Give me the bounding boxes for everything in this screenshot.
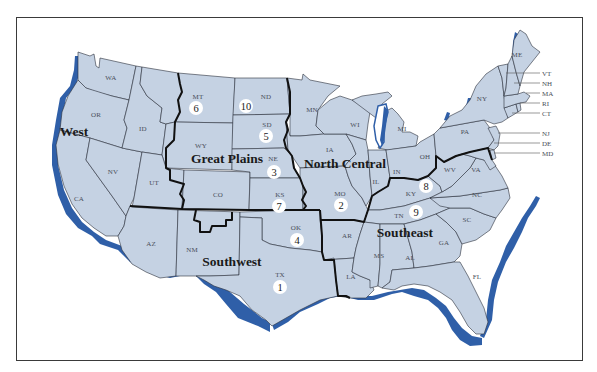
state-label-nv: NV	[108, 168, 119, 176]
state-label-pa: PA	[461, 128, 470, 136]
state-label-mt: MT	[193, 93, 204, 101]
state-label-ca: CA	[74, 195, 84, 203]
state-label-or: OR	[91, 111, 101, 119]
marker-number: 3	[271, 167, 276, 178]
state-label-ny: NY	[477, 95, 488, 103]
state-label-id: ID	[139, 125, 147, 133]
state-label-ok: OK	[291, 224, 302, 232]
marker-number: 8	[423, 181, 428, 192]
marker-number: 1	[277, 282, 282, 293]
marker-3[interactable]: 3	[267, 165, 281, 179]
marker-number: 6	[193, 103, 198, 114]
state-label-sd: SD	[262, 121, 271, 129]
state-label-nd: ND	[261, 93, 272, 101]
callout-label-nj: NJ	[542, 130, 550, 138]
callout-label-ma: MA	[542, 90, 553, 98]
state-label-co: CO	[213, 191, 223, 199]
states-layer	[56, 30, 540, 334]
state-label-ar: AR	[342, 232, 352, 240]
marker-number: 10	[241, 101, 252, 112]
state-label-ut: UT	[149, 179, 159, 187]
marker-5[interactable]: 5	[259, 129, 273, 143]
state-label-wv: WV	[444, 166, 456, 174]
region-label-west: West	[60, 124, 89, 139]
marker-number: 4	[294, 235, 300, 246]
state-label-oh: OH	[420, 153, 431, 161]
state-label-il: IL	[372, 178, 379, 186]
state-label-fl: FL	[473, 273, 482, 281]
region-label-great-plains: Great Plains	[191, 151, 263, 166]
state-label-wa: WA	[105, 74, 116, 82]
state-label-la: LA	[346, 273, 356, 281]
state-label-ia: IA	[326, 146, 334, 154]
state-label-wi: WI	[350, 121, 360, 129]
state-label-tx: TX	[275, 271, 285, 279]
marker-number: 5	[263, 131, 268, 142]
marker-number: 7	[276, 201, 281, 212]
state-label-nc: NC	[472, 191, 482, 199]
marker-number: 9	[413, 207, 418, 218]
us-regions-map: WAORIDMTNDSDWYNENVUTCOKSCAAZNMOKTXMNWIMI…	[0, 0, 597, 372]
state-label-sc: SC	[463, 216, 472, 224]
state-label-mo: MO	[334, 190, 346, 198]
state-label-al: AL	[405, 254, 415, 262]
region-label-north-central: North Central	[304, 156, 386, 171]
marker-6[interactable]: 6	[189, 101, 203, 115]
state-label-me: ME	[512, 51, 523, 59]
callout-label-ri: RI	[542, 100, 550, 108]
callout-label-md: MD	[542, 150, 553, 158]
state-co[interactable]	[182, 170, 250, 210]
state-label-ga: GA	[439, 239, 450, 247]
state-label-wy: WY	[195, 142, 207, 150]
region-label-southwest: Southwest	[202, 254, 262, 269]
region-label-southeast: Southeast	[377, 225, 434, 240]
marker-8[interactable]: 8	[419, 179, 433, 193]
marker-10[interactable]: 10	[239, 99, 253, 113]
callout-label-vt: VT	[542, 70, 552, 78]
state-label-mi: MI	[398, 125, 407, 133]
state-label-ne: NE	[268, 155, 278, 163]
marker-2[interactable]: 2	[334, 198, 348, 212]
state-label-nm: NM	[186, 246, 198, 254]
state-label-az: AZ	[146, 240, 156, 248]
callout-label-nh: NH	[542, 80, 552, 88]
state-label-ms: MS	[374, 252, 385, 260]
marker-1[interactable]: 1	[273, 280, 287, 294]
marker-4[interactable]: 4	[290, 233, 304, 247]
state-label-ky: KY	[406, 190, 417, 198]
state-label-in: IN	[393, 168, 401, 176]
callout-label-ct: CT	[542, 110, 552, 118]
state-label-ks: KS	[275, 191, 284, 199]
marker-number: 2	[338, 200, 343, 211]
state-ny[interactable]	[440, 66, 508, 128]
marker-7[interactable]: 7	[272, 199, 286, 213]
state-label-mn: MN	[306, 106, 318, 114]
marker-9[interactable]: 9	[409, 205, 423, 219]
callout-label-de: DE	[542, 140, 551, 148]
state-label-va: VA	[471, 166, 481, 174]
state-label-tn: TN	[394, 212, 404, 220]
